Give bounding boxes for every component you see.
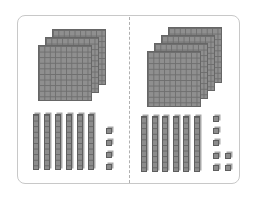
ones-cube <box>213 140 219 146</box>
ones-cube <box>213 153 219 159</box>
ones-cube <box>213 128 219 134</box>
tens-rod <box>44 114 50 170</box>
tens-rod <box>141 116 147 172</box>
hundreds-flat <box>38 45 92 101</box>
panel-divider <box>129 17 130 183</box>
tens-rod <box>183 116 189 172</box>
tens-rod <box>33 114 39 170</box>
ones-cube <box>106 152 112 158</box>
ones-cube <box>106 140 112 146</box>
tens-rod <box>194 116 200 172</box>
ones-cube <box>213 116 219 122</box>
tens-rod <box>66 114 72 170</box>
ones-cube <box>213 165 219 171</box>
tens-rod <box>88 114 94 170</box>
tens-rod <box>55 114 61 170</box>
tens-rod <box>152 116 158 172</box>
hundreds-flat <box>147 51 201 107</box>
ones-cube <box>225 153 231 159</box>
tens-rod <box>173 116 179 172</box>
ones-cube <box>106 164 112 170</box>
ones-cube <box>106 128 112 134</box>
tens-rod <box>77 114 83 170</box>
tens-rod <box>162 116 168 172</box>
ones-cube <box>225 165 231 171</box>
